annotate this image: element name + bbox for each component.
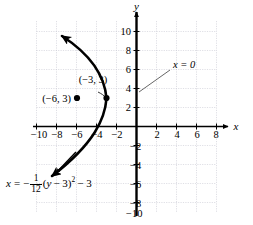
parabola-upper-branch (62, 36, 107, 99)
x-tick-label: −6 (71, 129, 82, 140)
y-tick-label: 8 (126, 45, 131, 56)
equation-exponent: 2 (72, 175, 76, 184)
graph-figure: x y −10 −8 (0, 0, 253, 225)
x-tick-labels: −10 −8 −6 −4 −2 2 4 6 8 (31, 129, 219, 140)
x-tick-label: 8 (213, 129, 218, 140)
vertex-label-leader-line (98, 92, 105, 97)
x-tick-label: 2 (154, 129, 159, 140)
y-tick-label: −6 (130, 179, 141, 190)
focus-point-label: (−6, 3) (42, 93, 71, 105)
y-axis-label: y (133, 0, 139, 12)
equation-fraction: 112 (30, 174, 42, 195)
equation-sign: − (23, 177, 29, 189)
x-axis-label: x (233, 120, 239, 132)
y-tick-label: −10 (126, 208, 142, 219)
equation-binomial-minus: − 3 (53, 177, 67, 189)
equation-leader-line (56, 152, 76, 173)
equation-tail: − 3 (77, 177, 91, 189)
x-tick-label: 6 (194, 129, 199, 140)
x-tick-label: −2 (111, 129, 122, 140)
y-tick-label: 4 (126, 83, 132, 94)
equation-variable: y (47, 177, 52, 189)
focus-point-marker (74, 95, 80, 101)
equation-denominator: 12 (30, 185, 42, 195)
equation-label: x=−112(y− 3)2− 3 (6, 174, 92, 195)
x-tick-label: 4 (174, 129, 180, 140)
directrix-label: x = 0 (172, 59, 196, 70)
y-tick-label: −4 (130, 160, 142, 171)
y-tick-label: 6 (126, 64, 131, 75)
equation-lhs: x (6, 177, 11, 189)
y-tick-label: −2 (130, 141, 141, 152)
parabola-curve (52, 36, 109, 176)
x-tick-label: −8 (51, 129, 62, 140)
y-tick-label: 2 (126, 102, 131, 113)
y-tick-label: 10 (121, 26, 132, 37)
y-tick-labels: 10 8 6 4 2 −2 −4 −6 −8 −10 (121, 26, 143, 219)
equation-equals: = (14, 177, 20, 189)
vertex-label: (−3, 3) (79, 74, 108, 86)
x-tick-label: −10 (31, 129, 47, 140)
